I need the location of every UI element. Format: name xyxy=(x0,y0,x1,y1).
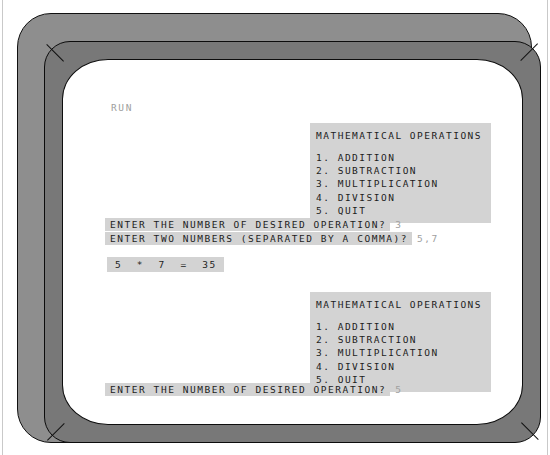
input-operation-first[interactable]: 3 xyxy=(390,219,402,230)
result-expression: 5 * 7 = 35 xyxy=(107,257,224,272)
menu-item-addition[interactable]: 1. ADDITION xyxy=(310,151,491,164)
prompt-operation-label: ENTER THE NUMBER OF DESIRED OPERATION? xyxy=(105,218,390,231)
prompt-group-first: ENTER THE NUMBER OF DESIRED OPERATION?3 … xyxy=(105,218,439,246)
menu-item-subtraction[interactable]: 2. SUBTRACTION xyxy=(310,333,491,346)
run-command-line: RUN xyxy=(111,101,133,114)
screenshot-page: RUN MATHEMATICAL OPERATIONS 1. ADDITION … xyxy=(0,0,550,455)
page-border-right xyxy=(547,0,548,455)
result-row: 5 * 7 = 35 xyxy=(107,258,224,272)
menu-spacer xyxy=(310,311,491,320)
menu-title: MATHEMATICAL OPERATIONS xyxy=(310,297,491,311)
page-border-left xyxy=(2,0,3,455)
menu-item-subtraction[interactable]: 2. SUBTRACTION xyxy=(310,164,491,177)
input-numbers[interactable]: 5,7 xyxy=(412,233,439,244)
prompt-row-operation: ENTER THE NUMBER OF DESIRED OPERATION?5 xyxy=(105,383,402,397)
monitor-outer-bezel: RUN MATHEMATICAL OPERATIONS 1. ADDITION … xyxy=(17,13,532,443)
menu-item-division[interactable]: 4. DIVISION xyxy=(310,191,491,204)
menu-item-multiplication[interactable]: 3. MULTIPLICATION xyxy=(310,346,491,359)
prompt-operation-label: ENTER THE NUMBER OF DESIRED OPERATION? xyxy=(105,383,390,396)
operations-menu-second: MATHEMATICAL OPERATIONS 1. ADDITION 2. S… xyxy=(310,292,491,392)
prompt-numbers-label: ENTER TWO NUMBERS (SEPARATED BY A COMMA)… xyxy=(105,232,412,245)
prompt-group-second: ENTER THE NUMBER OF DESIRED OPERATION?5 xyxy=(105,383,402,397)
prompt-row-numbers: ENTER TWO NUMBERS (SEPARATED BY A COMMA)… xyxy=(105,232,439,246)
prompt-row-operation: ENTER THE NUMBER OF DESIRED OPERATION?3 xyxy=(105,218,439,232)
crt-screen: RUN MATHEMATICAL OPERATIONS 1. ADDITION … xyxy=(62,59,523,425)
operations-menu-first: MATHEMATICAL OPERATIONS 1. ADDITION 2. S… xyxy=(310,123,491,223)
menu-item-addition[interactable]: 1. ADDITION xyxy=(310,320,491,333)
terminal-output: RUN MATHEMATICAL OPERATIONS 1. ADDITION … xyxy=(63,60,523,425)
menu-spacer xyxy=(310,142,491,151)
menu-title: MATHEMATICAL OPERATIONS xyxy=(310,128,491,142)
input-operation-second[interactable]: 5 xyxy=(390,384,402,395)
menu-item-division[interactable]: 4. DIVISION xyxy=(310,360,491,373)
menu-item-multiplication[interactable]: 3. MULTIPLICATION xyxy=(310,177,491,190)
menu-item-quit[interactable]: 5. QUIT xyxy=(310,204,491,217)
